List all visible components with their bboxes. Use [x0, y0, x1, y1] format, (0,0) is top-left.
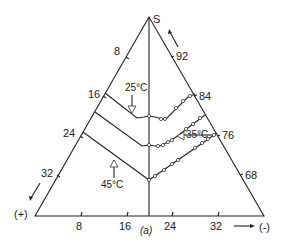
right-corner-label: (-) [259, 221, 270, 233]
right-tick-68: 68 [245, 169, 257, 181]
right-tick-84: 84 [199, 90, 211, 102]
left-corner-label: (+) [14, 208, 28, 220]
bottom-tick-8: 8 [76, 220, 82, 232]
bottom-tick-32: 32 [210, 220, 222, 232]
arrow-up-icon [168, 29, 172, 34]
arrow-right-icon [250, 224, 255, 228]
bottom-tick-24: 24 [164, 220, 176, 232]
right-tick-92: 92 [176, 50, 188, 62]
arrow-down-left-icon [29, 196, 33, 201]
label-25c: 25°C [125, 82, 147, 93]
apex-label: S [153, 13, 160, 25]
right-tick-76: 76 [222, 129, 234, 141]
bottom-axis-ticks [81, 212, 219, 216]
left-tick-24: 24 [63, 127, 75, 139]
isotherm-25 [105, 93, 195, 121]
left-tick-8: 8 [114, 45, 120, 57]
figure-caption: (a) [140, 225, 152, 236]
ternary-diagram: 8 16 24 32 92 84 76 68 8 16 24 32 S (+) … [0, 0, 292, 247]
left-tick-32: 32 [41, 167, 53, 179]
bottom-tick-16: 16 [119, 220, 131, 232]
label-45c: 45°C [101, 179, 123, 190]
left-tick-16: 16 [88, 88, 100, 100]
arrow-head-45c-icon [110, 160, 118, 167]
